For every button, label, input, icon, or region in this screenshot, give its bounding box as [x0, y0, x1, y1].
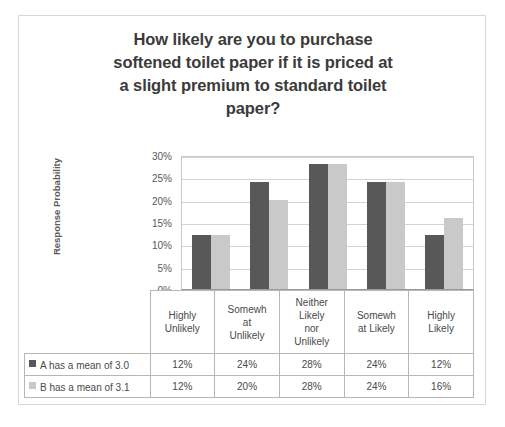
bar-group	[357, 157, 415, 289]
table-value-cell: 24%	[344, 354, 409, 376]
legend-label: B has a mean of 3.1	[40, 381, 130, 392]
table-category-header: Somewhat Likely	[344, 291, 409, 354]
table-row: A has a mean of 3.012%24%28%24%12%	[25, 354, 474, 376]
table-value-cell: 16%	[409, 376, 474, 398]
y-axis-tick-20: 20%	[152, 195, 172, 206]
table-header-row: HighlyUnlikelySomewhatUnlikelyNeitherLik…	[25, 291, 474, 354]
table-value-cell: 12%	[150, 354, 215, 376]
y-axis-tick-5: 5%	[158, 262, 172, 273]
legend-entry: B has a mean of 3.1	[25, 376, 151, 398]
legend-swatch-icon	[29, 360, 36, 367]
bar	[309, 164, 328, 289]
table-value-cell: 24%	[215, 354, 280, 376]
bar	[250, 182, 269, 289]
chart-title-line-1: softened toilet paper if it is priced at	[47, 51, 459, 74]
table-category-header: NeitherLikelynorUnlikely	[279, 291, 344, 354]
plot-area	[181, 156, 474, 290]
bar	[425, 235, 444, 289]
chart-title: How likely are you to purchasesoftened t…	[47, 28, 459, 120]
table-value-cell: 28%	[279, 354, 344, 376]
table-value-cell: 28%	[279, 376, 344, 398]
table-value-cell: 12%	[150, 376, 215, 398]
bar	[192, 235, 211, 289]
bar-group	[415, 157, 473, 289]
table-category-header: HighlyLikely	[409, 291, 474, 354]
table-value-cell: 20%	[215, 376, 280, 398]
chart-title-line-3: paper?	[47, 97, 459, 120]
bar	[211, 235, 230, 289]
legend-swatch-icon	[29, 382, 36, 389]
table-corner-cell	[25, 291, 151, 354]
table-category-header: HighlyUnlikely	[150, 291, 215, 354]
bar-group	[182, 157, 240, 289]
bar	[269, 200, 288, 289]
bar-group	[298, 157, 356, 289]
table-value-cell: 12%	[409, 354, 474, 376]
y-axis-tick-15: 15%	[152, 218, 172, 229]
bar	[328, 164, 347, 289]
data-table: HighlyUnlikelySomewhatUnlikelyNeitherLik…	[24, 290, 474, 398]
y-axis-tick-25: 25%	[152, 173, 172, 184]
plot-region: 0%5%10%15%20%25%30%	[144, 156, 474, 290]
chart-frame: How likely are you to purchasesoftened t…	[18, 15, 486, 405]
y-axis-tick-labels: 0%5%10%15%20%25%30%	[144, 156, 176, 290]
y-axis-tick-30: 30%	[152, 151, 172, 162]
chart-title-line-2: a slight premium to standard toilet	[47, 74, 459, 97]
bar	[444, 218, 463, 289]
table-value-cell: 24%	[344, 376, 409, 398]
bar	[367, 182, 386, 289]
legend-label: A has a mean of 3.0	[40, 359, 129, 370]
table-row: B has a mean of 3.112%20%28%24%16%	[25, 376, 474, 398]
bars-layer	[182, 157, 473, 289]
y-axis-tick-10: 10%	[152, 240, 172, 251]
y-axis-title: Response Probability	[51, 142, 62, 272]
bar	[386, 182, 405, 289]
legend-entry: A has a mean of 3.0	[25, 354, 151, 376]
chart-title-line-0: How likely are you to purchase	[47, 28, 459, 51]
bar-group	[240, 157, 298, 289]
table-category-header: SomewhatUnlikely	[215, 291, 280, 354]
